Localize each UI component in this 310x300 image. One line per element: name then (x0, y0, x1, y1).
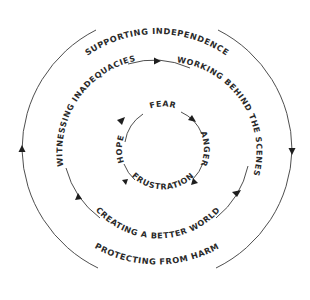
middle-ring-arc-left (66, 168, 100, 218)
label-fear: FEAR (149, 99, 178, 110)
label-frustration: FRUSTRATION (130, 171, 196, 191)
label-hope: HOPE (115, 134, 126, 165)
middle-ring: WITNESSING INADEQUACIES WORKING BEHIND T… (55, 54, 263, 241)
arrow-up-left-icon (75, 193, 82, 200)
arrow-right-icon (154, 58, 161, 65)
arrow-down-right-icon (188, 115, 196, 122)
label-witnessing-inadequacies: WITNESSING INADEQUACIES (55, 54, 136, 167)
inner-ring-arc-top-left (125, 114, 143, 142)
label-creating-a-better-world: CREATING A BETTER WORLD (94, 205, 222, 240)
outer-ring-arc-bottom-left (22, 150, 98, 268)
inner-ring-arc-top-right (181, 112, 202, 134)
label-anger: ANGER (199, 130, 211, 168)
label-working-behind-the-scenes: WORKING BEHIND THE SCENES (176, 55, 263, 177)
arrow-down-left-icon (232, 190, 241, 197)
label-supporting-independence: SUPPORTING INDEPENDENCE (83, 26, 231, 58)
cycle-diagram: SUPPORTING INDEPENDENCE PROTECTING FROM … (0, 0, 310, 300)
arrow-down-right-icon (122, 179, 128, 185)
arrow-down-icon (289, 148, 296, 155)
label-protecting-from-harm: PROTECTING FROM HARM (93, 241, 220, 267)
inner-ring: FEAR ANGER FRUSTRATION HOPE (115, 99, 211, 191)
arrow-up-right-icon (117, 117, 125, 125)
arrow-up-icon (19, 145, 26, 152)
